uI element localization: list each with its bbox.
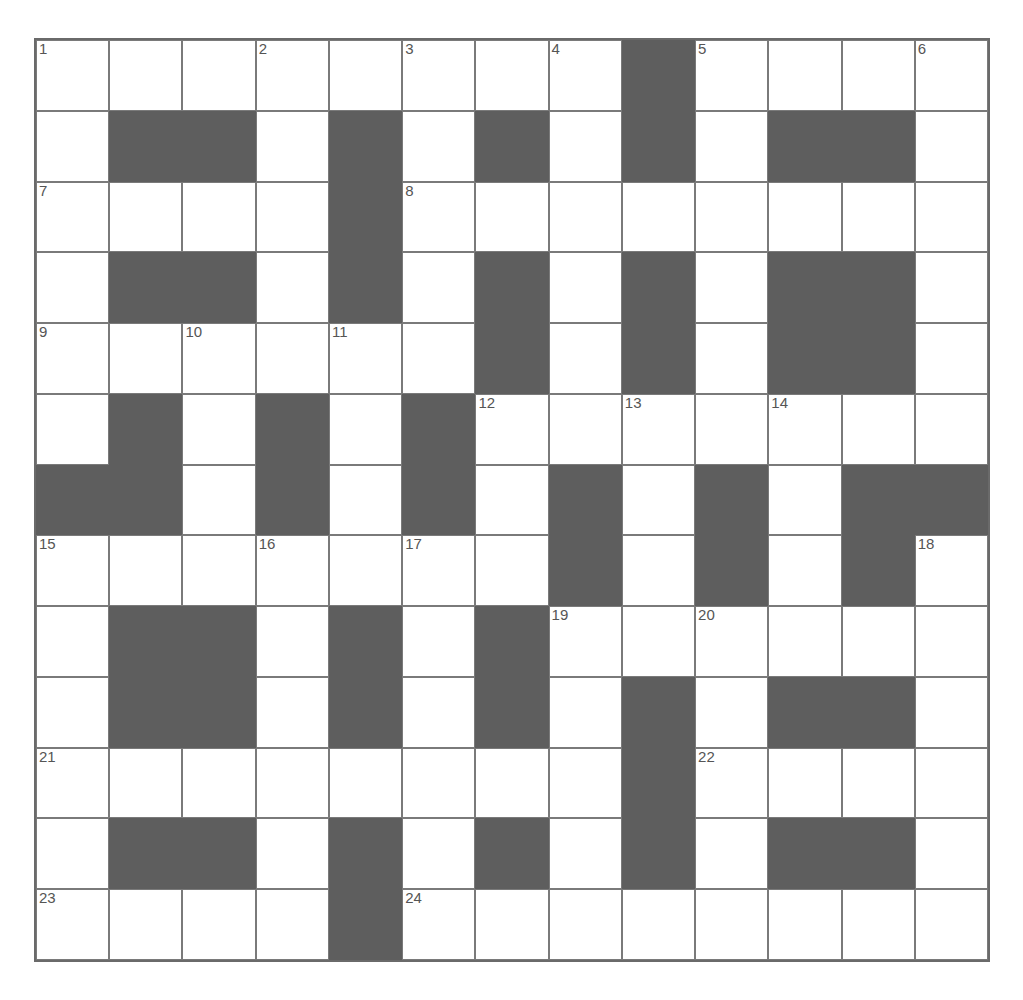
- grid-cell[interactable]: [182, 182, 255, 253]
- grid-cell[interactable]: 16: [256, 535, 329, 606]
- grid-cell[interactable]: [768, 535, 841, 606]
- grid-cell[interactable]: [695, 182, 768, 253]
- grid-cell[interactable]: [549, 252, 622, 323]
- grid-cell[interactable]: [256, 252, 329, 323]
- grid-cell[interactable]: [768, 40, 841, 111]
- grid-cell[interactable]: [256, 818, 329, 889]
- grid-cell[interactable]: [329, 40, 402, 111]
- grid-cell[interactable]: 17: [402, 535, 475, 606]
- grid-cell[interactable]: [256, 182, 329, 253]
- grid-cell[interactable]: [695, 323, 768, 394]
- grid-cell[interactable]: 7: [36, 182, 109, 253]
- grid-cell[interactable]: [256, 323, 329, 394]
- grid-cell[interactable]: [182, 889, 255, 960]
- grid-cell[interactable]: [695, 111, 768, 182]
- grid-cell[interactable]: [549, 394, 622, 465]
- grid-cell[interactable]: [256, 677, 329, 748]
- grid-cell[interactable]: [256, 111, 329, 182]
- grid-cell[interactable]: 10: [182, 323, 255, 394]
- grid-cell[interactable]: 1: [36, 40, 109, 111]
- grid-cell[interactable]: 4: [549, 40, 622, 111]
- grid-cell[interactable]: 19: [549, 606, 622, 677]
- grid-cell[interactable]: 8: [402, 182, 475, 253]
- grid-cell[interactable]: [915, 323, 988, 394]
- grid-cell[interactable]: [549, 182, 622, 253]
- grid-cell[interactable]: [402, 111, 475, 182]
- grid-cell[interactable]: [109, 40, 182, 111]
- grid-cell[interactable]: [695, 252, 768, 323]
- grid-cell[interactable]: [549, 748, 622, 819]
- grid-cell[interactable]: [475, 535, 548, 606]
- grid-cell[interactable]: [36, 252, 109, 323]
- grid-cell[interactable]: [842, 606, 915, 677]
- grid-cell[interactable]: [842, 394, 915, 465]
- grid-cell[interactable]: [768, 606, 841, 677]
- grid-cell[interactable]: [329, 394, 402, 465]
- grid-cell[interactable]: [768, 889, 841, 960]
- grid-cell[interactable]: [475, 748, 548, 819]
- grid-cell[interactable]: [622, 889, 695, 960]
- grid-cell[interactable]: [622, 465, 695, 536]
- grid-cell[interactable]: [402, 677, 475, 748]
- grid-cell[interactable]: 2: [256, 40, 329, 111]
- grid-cell[interactable]: [109, 748, 182, 819]
- grid-cell[interactable]: [549, 889, 622, 960]
- grid-cell[interactable]: [695, 394, 768, 465]
- grid-cell[interactable]: [36, 677, 109, 748]
- grid-cell[interactable]: 9: [36, 323, 109, 394]
- grid-cell[interactable]: 12: [475, 394, 548, 465]
- grid-cell[interactable]: [475, 182, 548, 253]
- grid-cell[interactable]: [109, 889, 182, 960]
- grid-cell[interactable]: [842, 40, 915, 111]
- grid-cell[interactable]: [109, 323, 182, 394]
- grid-cell[interactable]: [842, 889, 915, 960]
- grid-cell[interactable]: [768, 465, 841, 536]
- grid-cell[interactable]: [329, 465, 402, 536]
- grid-cell[interactable]: [549, 818, 622, 889]
- grid-cell[interactable]: 11: [329, 323, 402, 394]
- grid-cell[interactable]: [402, 323, 475, 394]
- grid-cell[interactable]: [475, 889, 548, 960]
- grid-cell[interactable]: [36, 394, 109, 465]
- grid-cell[interactable]: 24: [402, 889, 475, 960]
- grid-cell[interactable]: 22: [695, 748, 768, 819]
- grid-cell[interactable]: [842, 182, 915, 253]
- grid-cell[interactable]: [549, 677, 622, 748]
- grid-cell[interactable]: 5: [695, 40, 768, 111]
- grid-cell[interactable]: [915, 818, 988, 889]
- grid-cell[interactable]: 20: [695, 606, 768, 677]
- grid-cell[interactable]: [402, 606, 475, 677]
- grid-cell[interactable]: [695, 889, 768, 960]
- grid-cell[interactable]: [475, 40, 548, 111]
- grid-cell[interactable]: [915, 182, 988, 253]
- grid-cell[interactable]: [402, 748, 475, 819]
- grid-cell[interactable]: 18: [915, 535, 988, 606]
- grid-cell[interactable]: [768, 182, 841, 253]
- grid-cell[interactable]: 6: [915, 40, 988, 111]
- grid-cell[interactable]: [549, 323, 622, 394]
- grid-cell[interactable]: [915, 677, 988, 748]
- grid-cell[interactable]: [182, 535, 255, 606]
- grid-cell[interactable]: 21: [36, 748, 109, 819]
- grid-cell[interactable]: [182, 465, 255, 536]
- grid-cell[interactable]: [182, 40, 255, 111]
- grid-cell[interactable]: [402, 818, 475, 889]
- grid-cell[interactable]: [256, 748, 329, 819]
- grid-cell[interactable]: [182, 748, 255, 819]
- grid-cell[interactable]: [622, 535, 695, 606]
- grid-cell[interactable]: [329, 748, 402, 819]
- grid-cell[interactable]: [915, 606, 988, 677]
- grid-cell[interactable]: [622, 606, 695, 677]
- grid-cell[interactable]: [36, 111, 109, 182]
- grid-cell[interactable]: [915, 889, 988, 960]
- grid-cell[interactable]: [36, 606, 109, 677]
- grid-cell[interactable]: 14: [768, 394, 841, 465]
- grid-cell[interactable]: [622, 182, 695, 253]
- grid-cell[interactable]: [915, 252, 988, 323]
- grid-cell[interactable]: [915, 748, 988, 819]
- grid-cell[interactable]: [329, 535, 402, 606]
- grid-cell[interactable]: [256, 606, 329, 677]
- grid-cell[interactable]: 23: [36, 889, 109, 960]
- grid-cell[interactable]: [695, 818, 768, 889]
- grid-cell[interactable]: [256, 889, 329, 960]
